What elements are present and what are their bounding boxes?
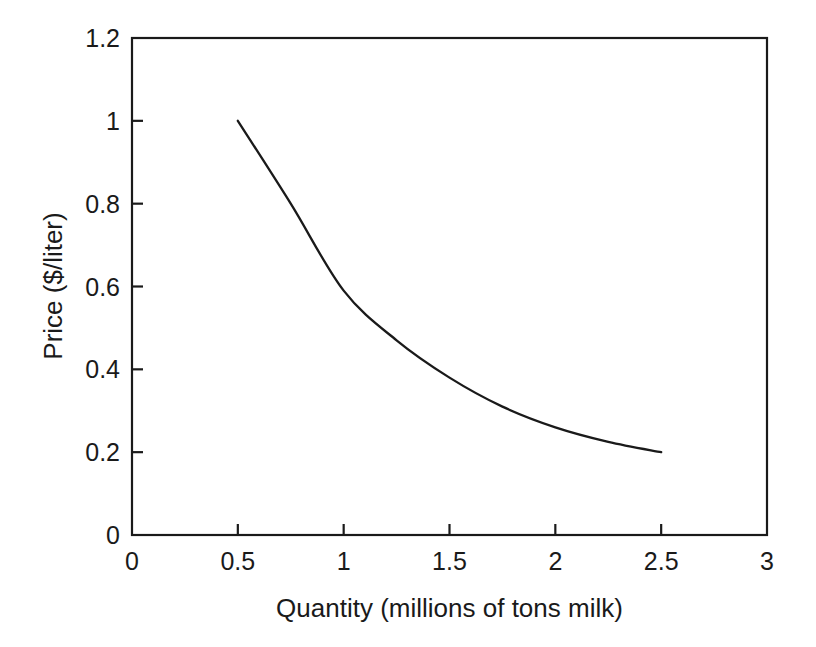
x-tick-label: 0 — [125, 547, 139, 575]
y-tick-label: 0.4 — [85, 355, 120, 383]
x-tick-label: 0.5 — [220, 547, 255, 575]
y-tick-label: 0.2 — [85, 438, 120, 466]
chart-background — [0, 0, 816, 647]
x-axis-title: Quantity (millions of tons milk) — [276, 593, 623, 623]
x-tick-label: 1 — [337, 547, 351, 575]
chart-figure: 00.511.522.53 00.20.40.60.811.2 Quantity… — [0, 0, 816, 647]
x-tick-label: 2 — [548, 547, 562, 575]
x-tick-label: 2.5 — [644, 547, 679, 575]
y-tick-label: 0 — [106, 521, 120, 549]
x-tick-label: 1.5 — [432, 547, 467, 575]
y-tick-label: 1 — [106, 107, 120, 135]
y-axis-title: Price ($/liter) — [38, 212, 68, 359]
chart-canvas: 00.511.522.53 00.20.40.60.811.2 Quantity… — [0, 0, 816, 647]
y-tick-label: 0.8 — [85, 190, 120, 218]
x-tick-label: 3 — [760, 547, 774, 575]
x-axis-tick-labels: 00.511.522.53 — [125, 547, 774, 575]
y-tick-label: 1.2 — [85, 24, 120, 52]
y-tick-label: 0.6 — [85, 273, 120, 301]
